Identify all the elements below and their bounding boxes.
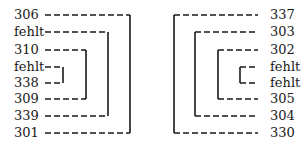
right-dashed-lines [174, 15, 258, 133]
left-dashed-lines [45, 15, 130, 133]
bracket-lines [0, 0, 307, 152]
